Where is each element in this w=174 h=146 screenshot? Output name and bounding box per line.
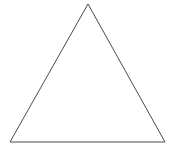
diagram-canvas	[0, 0, 174, 146]
triangle-shape	[10, 4, 165, 142]
triangle-figure	[0, 0, 174, 146]
